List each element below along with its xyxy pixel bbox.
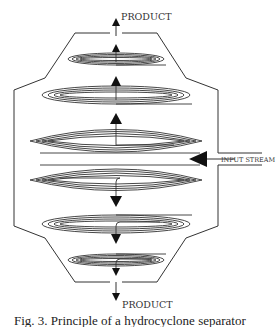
top-product-label: PRODUCT [121, 11, 172, 22]
top-outlet-arrow [112, 18, 120, 36]
spiral-4 [30, 165, 202, 207]
spiral-1 [68, 44, 166, 65]
bottom-outlet-arrow [112, 282, 120, 301]
spiral-5 [42, 215, 192, 244]
figure-caption: Fig. 3. Principle of a hydrocyclone sepa… [14, 314, 279, 327]
spiral-2 [42, 76, 192, 104]
spiral-3 [30, 113, 202, 153]
bottom-product-label: PRODUCT [122, 299, 173, 310]
spiral-6 [68, 254, 166, 276]
input-stream-label: INPUT STREAM [221, 156, 276, 164]
